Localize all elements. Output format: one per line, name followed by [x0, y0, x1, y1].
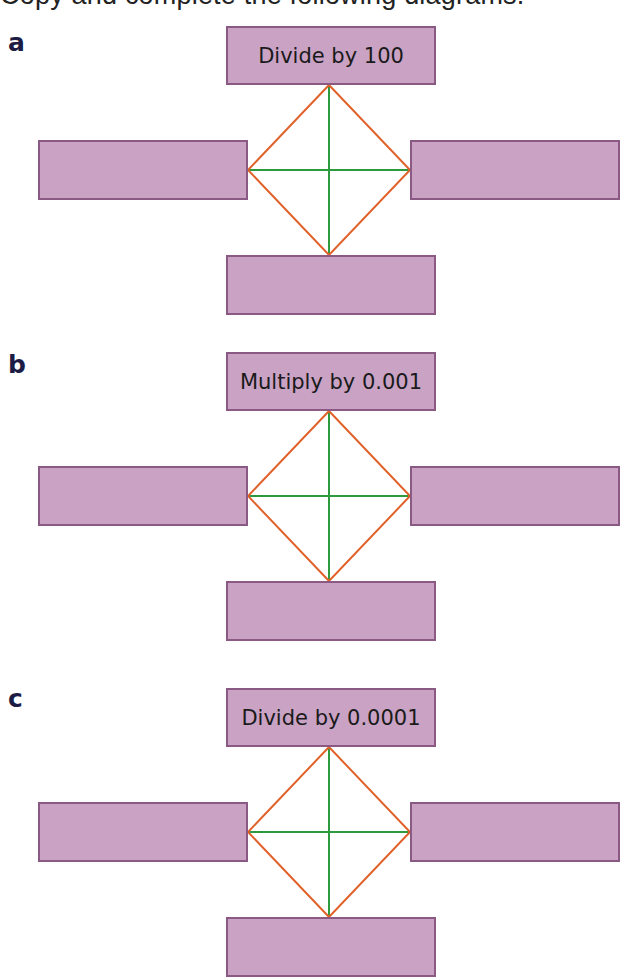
left-box-c[interactable] [38, 802, 248, 862]
top-box-c: Divide by 0.0001 [226, 688, 436, 747]
bottom-box-c[interactable] [226, 917, 436, 977]
right-box-c[interactable] [410, 802, 620, 862]
